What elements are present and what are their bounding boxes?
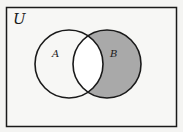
set-a-circle [35, 30, 103, 98]
set-a-label: A [51, 48, 59, 59]
universe-label: U [13, 10, 27, 28]
set-b-label: B [109, 48, 117, 59]
venn-diagram: U A B [0, 0, 183, 132]
